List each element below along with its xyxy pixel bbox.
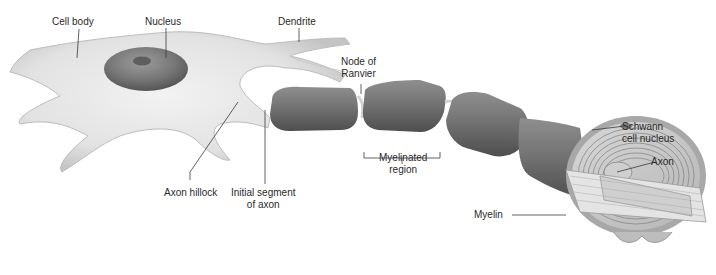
label-myelinated-region: Myelinated region (379, 152, 427, 176)
label-myelinated-line1: Myelinated (379, 152, 427, 164)
label-node-of-ranvier-line1: Node of (341, 56, 376, 68)
label-node-of-ranvier-line2: Ranvier (341, 68, 376, 80)
label-initial-segment-line1: Initial segment (231, 187, 295, 199)
label-initial-segment: Initial segment of axon (231, 187, 295, 211)
myelin-segments (270, 80, 590, 200)
nucleus-shape (104, 47, 188, 91)
label-myelin: Myelin (474, 209, 503, 221)
label-schwann-cell-nucleus: Schwann cell nucleus (622, 121, 674, 145)
neuron-illustration (0, 0, 716, 275)
label-axon-hillock: Axon hillock (164, 187, 217, 199)
neuron-diagram: Cell body Nucleus Dendrite Node of Ranvi… (0, 0, 716, 275)
label-schwann-line2: cell nucleus (622, 133, 674, 145)
label-initial-segment-line2: of axon (231, 199, 295, 211)
label-node-of-ranvier: Node of Ranvier (341, 56, 376, 80)
label-cell-body: Cell body (52, 16, 94, 28)
label-myelinated-line2: region (379, 164, 427, 176)
label-nucleus: Nucleus (145, 16, 181, 28)
label-schwann-line1: Schwann (622, 121, 674, 133)
label-dendrite: Dendrite (278, 16, 316, 28)
label-axon: Axon (651, 156, 674, 168)
